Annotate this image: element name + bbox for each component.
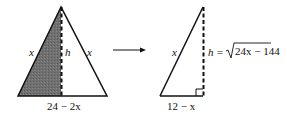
height-label-prefix: h = [208,46,224,58]
right-side-label: x [86,46,92,58]
base-label: 24 − 2x [47,100,81,112]
height-label-radicand: 24x − 144 [235,45,280,57]
hypotenuse [160,7,203,96]
right-triangle: x h = 24x − 144 12 − x [160,7,280,112]
right-angle-marker [196,89,203,96]
hypotenuse-label: x [171,46,177,58]
height-label: h [65,46,71,58]
base-label: 12 − x [167,100,196,112]
left-side-label: x [28,46,34,58]
arrow-right-icon [113,48,146,53]
isosceles-triangle: x h x 24 − 2x [18,7,107,112]
triangle-diagram: x h x 24 − 2x x h = 24x − 144 12 − x [0,0,287,113]
